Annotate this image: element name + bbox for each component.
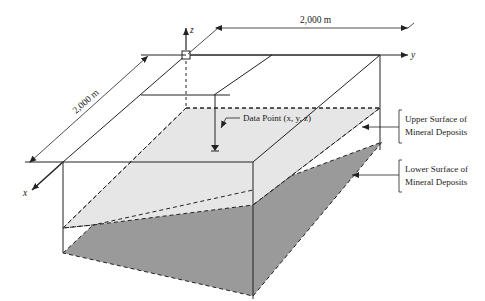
axis-y: y <box>186 50 416 60</box>
svg-text:Data Point (x, y, z): Data Point (x, y, z) <box>243 113 311 123</box>
svg-text:Lower Surface of: Lower Surface of <box>405 164 468 174</box>
dimension-depth: 2,000 m <box>30 56 148 162</box>
svg-text:Mineral Deposits: Mineral Deposits <box>405 177 468 187</box>
svg-text:2,000 m: 2,000 m <box>71 87 101 116</box>
svg-text:z: z <box>189 25 194 35</box>
upper-surface-annotation: Upper Surface of Mineral Deposits <box>362 110 468 143</box>
mineral-deposit-diagram: y z x 2,000 m 2,000 m Data Point (x, y, … <box>0 0 485 301</box>
dimension-width: 2,000 m <box>188 15 414 54</box>
svg-text:Mineral Deposits: Mineral Deposits <box>405 127 468 137</box>
axis-x: x <box>22 162 63 198</box>
lower-surface-annotation: Lower Surface of Mineral Deposits <box>352 160 468 192</box>
svg-text:x: x <box>22 188 28 198</box>
svg-text:2,000 m: 2,000 m <box>300 15 332 25</box>
axis-z: z <box>186 25 194 50</box>
svg-text:y: y <box>410 50 416 60</box>
svg-text:Upper Surface of: Upper Surface of <box>405 114 467 124</box>
